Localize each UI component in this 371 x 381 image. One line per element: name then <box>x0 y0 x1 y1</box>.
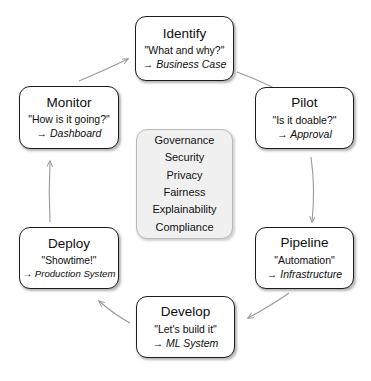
governance-item-governance: Governance <box>155 132 215 149</box>
node-develop[interactable]: Develop "Let's build it" → ML System <box>136 296 235 358</box>
node-monitor[interactable]: Monitor "How is it going?" → Dashboard <box>19 86 119 149</box>
edge-pilot-to-pipeline <box>311 157 314 222</box>
node-monitor-artifact-label: Dashboard <box>50 127 101 139</box>
edge-monitor-to-identify <box>79 59 128 81</box>
node-identify-title: Identify <box>163 27 207 42</box>
node-pilot-quote: "Is it doable?" <box>272 114 336 126</box>
governance-item-compliance: Compliance <box>155 219 213 236</box>
node-develop-artifact-label: ML System <box>166 337 218 349</box>
arrow-glyph-icon: → <box>143 58 154 70</box>
edge-deploy-to-monitor <box>49 161 50 222</box>
node-pipeline-title: Pipeline <box>280 236 328 251</box>
node-identify-artifact-label: Business Case <box>156 58 226 70</box>
node-pipeline[interactable]: Pipeline "Automation" → Infrastructure <box>255 227 354 289</box>
node-pipeline-quote: "Automation" <box>274 254 335 266</box>
node-monitor-quote: "How is it going?" <box>28 113 110 125</box>
node-identify-quote: "What and why?" <box>145 44 225 56</box>
edge-develop-to-deploy <box>99 301 130 323</box>
node-deploy-title: Deploy <box>48 237 90 252</box>
arrow-glyph-icon: → <box>267 268 278 280</box>
governance-core-box: Governance Security Privacy Fairness Exp… <box>136 129 233 239</box>
node-pilot-title: Pilot <box>291 96 317 111</box>
arrow-glyph-icon: → <box>277 128 288 140</box>
node-develop-title: Develop <box>161 305 211 320</box>
node-develop-quote: "Let's build it" <box>154 323 217 335</box>
node-pilot-artifact-label: Approval <box>290 128 331 140</box>
node-pipeline-artifact: → Infrastructure <box>267 268 342 280</box>
node-pilot-artifact: → Approval <box>277 128 331 140</box>
node-develop-artifact: → ML System <box>153 337 219 349</box>
governance-item-explainability: Explainability <box>152 201 216 218</box>
node-monitor-artifact: → Dashboard <box>37 127 102 139</box>
node-deploy-artifact: → Production System <box>23 268 116 279</box>
governance-item-fairness: Fairness <box>163 184 205 201</box>
node-identify-artifact: → Business Case <box>143 58 226 70</box>
governance-item-security: Security <box>165 149 205 166</box>
arrow-glyph-icon: → <box>23 268 33 279</box>
node-deploy-artifact-label: Production System <box>35 268 116 279</box>
node-pilot[interactable]: Pilot "Is it doable?" → Approval <box>255 87 354 149</box>
governance-item-privacy: Privacy <box>166 167 202 184</box>
node-deploy[interactable]: Deploy "Showtime!" → Production System <box>19 227 119 289</box>
node-pipeline-artifact-label: Infrastructure <box>280 268 342 280</box>
node-deploy-quote: "Showtime!" <box>42 255 97 267</box>
arrow-glyph-icon: → <box>153 337 164 349</box>
edge-pipeline-to-develop <box>248 293 289 318</box>
node-monitor-title: Monitor <box>46 96 91 111</box>
node-identify[interactable]: Identify "What and why?" → Business Case <box>135 16 234 81</box>
diagram-canvas: Identify "What and why?" → Business Case… <box>0 0 371 381</box>
arrow-glyph-icon: → <box>37 127 48 139</box>
